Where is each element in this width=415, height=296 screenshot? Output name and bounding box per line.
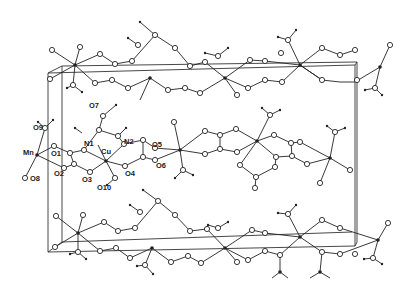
middle-chain: [25, 105, 350, 188]
atom-label-o1: O1: [51, 150, 61, 158]
atom-label-o9: O9: [33, 124, 43, 132]
crystal-structure-diagram: [0, 0, 415, 296]
atom-label-cu: Cu: [101, 148, 111, 156]
bottom-chain: [55, 190, 388, 278]
atom-label-o6: O6: [156, 162, 166, 170]
atom-label-o10: O10: [97, 184, 111, 192]
atom-label-o5: O5: [152, 141, 162, 149]
atom-label-o3: O3: [82, 176, 92, 184]
atom-label-o8: O8: [30, 175, 40, 183]
atom-label-o4: O4: [125, 170, 135, 178]
atom-label-n2: N2: [124, 138, 134, 146]
atom-label-n1: N1: [84, 140, 94, 148]
middle-chain-atoms: [22, 104, 352, 191]
atom-label-o2: O2: [54, 170, 64, 178]
top-chain: [50, 22, 390, 100]
atom-label-o7: O7: [89, 102, 99, 110]
atom-label-mn: Mn: [23, 149, 34, 157]
top-chain-atoms: [47, 21, 392, 98]
unit-cell: [48, 62, 357, 252]
